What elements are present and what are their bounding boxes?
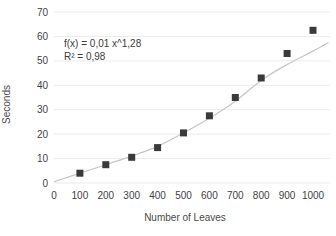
x-tick-label-500: 500 — [175, 190, 192, 201]
y-tick-label-60: 60 — [37, 31, 49, 42]
y-tick-label-40: 40 — [37, 80, 49, 91]
data-point-900 — [284, 50, 291, 57]
power-trendline — [54, 43, 329, 182]
y-axis-title: Seconds — [1, 70, 12, 140]
y-tick-label-30: 30 — [37, 104, 49, 115]
x-tick-label-400: 400 — [149, 190, 166, 201]
x-tick-label-700: 700 — [227, 190, 244, 201]
r-squared-text: R² = 0,98 — [64, 50, 141, 63]
data-point-400 — [154, 144, 161, 151]
data-point-700 — [232, 94, 239, 101]
y-tick-label-0: 0 — [42, 178, 48, 189]
y-tick-label-50: 50 — [37, 55, 49, 66]
chart-figure: 0102030405060700100200300400500600700800… — [0, 0, 336, 236]
data-point-800 — [258, 75, 265, 82]
x-tick-label-800: 800 — [253, 190, 270, 201]
data-point-100 — [76, 170, 83, 177]
data-point-200 — [102, 161, 109, 168]
y-tick-label-70: 70 — [37, 7, 49, 18]
data-point-500 — [180, 129, 187, 136]
data-point-300 — [128, 154, 135, 161]
x-tick-label-900: 900 — [279, 190, 296, 201]
data-point-600 — [206, 112, 213, 119]
x-tick-label-300: 300 — [123, 190, 140, 201]
x-tick-label-1000: 1000 — [302, 190, 325, 201]
x-axis-title: Number of Leaves — [54, 212, 316, 223]
data-point-1000 — [310, 27, 317, 34]
x-tick-label-100: 100 — [72, 190, 89, 201]
equation-text: f(x) = 0,01 x^1,28 — [64, 37, 141, 50]
y-tick-label-20: 20 — [37, 129, 49, 140]
x-tick-label-600: 600 — [201, 190, 218, 201]
y-tick-label-10: 10 — [37, 153, 49, 164]
scatter-plot-canvas: 0102030405060700100200300400500600700800… — [0, 0, 336, 236]
x-tick-label-0: 0 — [51, 190, 57, 201]
x-tick-label-200: 200 — [97, 190, 114, 201]
trendline-equation-annotation: f(x) = 0,01 x^1,28 R² = 0,98 — [64, 37, 141, 63]
